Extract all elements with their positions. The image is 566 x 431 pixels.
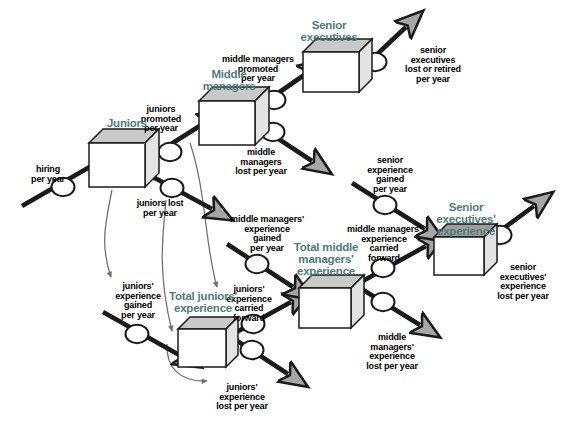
valve-senior-experience-gained-per-year[interactable] [374,196,397,214]
flow-label-senior-executives-lost-or-retired-per-year: senior executives lost or retired per ye… [391,46,475,84]
flow-label-juniors-experience-lost-per-year: juniors' experience lost per year [205,383,279,412]
valve-juniors-promoted-per-year[interactable] [159,143,182,161]
flow-label-senior-executives-experience-lost-per-year: senior executives' experience lost per y… [486,263,560,301]
flow-label-middle-managers-lost-per-year: middle managers lost per year [225,148,297,177]
stock-front-face [178,329,226,367]
stock-label-total-juniors-experience: Total juniors' experience [160,290,246,314]
stock-front-face [434,237,484,275]
stock-middle-managers[interactable] [199,87,269,145]
stock-and-flow-diagram: hiring per yearjuniors promoted per year… [0,0,566,431]
stock-senior-executives[interactable] [303,39,372,92]
stock-front-face [89,143,145,187]
stock-label-senior-executives-experience: Senior executives' experience [424,201,508,237]
connector-middle-managers-to-juniors-experience-carried-forward [190,143,217,287]
stock-front-face [303,52,359,92]
stock-label-senior-executives: Senior executives [289,19,369,43]
stock-total-juniors-experience[interactable] [178,317,238,367]
stock-label-middle-managers: Middle managers [193,68,265,92]
stock-front-face [199,101,255,145]
stock-front-face [299,288,351,328]
stock-total-middle-managers-experience[interactable] [299,275,364,328]
valve-juniors-experience-lost-per-year[interactable] [241,341,264,359]
flow-label-hiring-per-year: hiring per year [21,165,75,184]
valve-juniors-experience-gained-per-year[interactable] [126,325,149,343]
stock-label-juniors: Juniors [96,117,158,129]
flow-label-senior-experience-gained-per-year: senior experience gained per year [356,156,424,194]
connector-juniors-to-juniors-experience-gained [105,190,112,277]
flow-label-juniors-lost-per-year: juniors lost per year [127,199,193,218]
flow-label-middle-managers-experience-lost-per-year: middle managers' experience lost per yea… [355,333,429,371]
valve-middle-managers-experience-gained-per-year[interactable] [246,255,269,273]
stock-juniors[interactable] [89,129,159,187]
stock-label-total-middle-managers-experience: Total middle managers' experience [283,241,369,277]
valve-juniors-lost-per-year[interactable] [161,179,184,197]
valve-middle-managers-experience-lost-per-year[interactable] [372,293,395,311]
